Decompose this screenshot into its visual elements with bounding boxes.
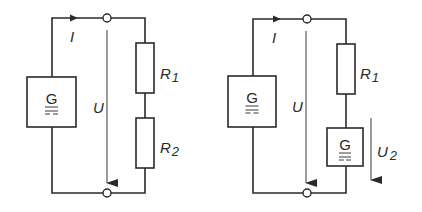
resistor-r1 (337, 44, 355, 94)
r1-label: R1 (160, 65, 179, 85)
current-arrow-icon (70, 15, 78, 22)
resistor-r1 (136, 43, 154, 93)
generator-label: G (246, 89, 258, 106)
right-top-wire-right (311, 19, 346, 44)
left-bottom-wire (52, 127, 103, 193)
current-label: I (272, 29, 276, 46)
terminal-bottom (103, 189, 111, 197)
generator-label: G (46, 90, 58, 107)
r2-label: R2 (160, 139, 180, 159)
left-circuit: G I U R1 R2 (27, 14, 180, 197)
voltage-label: U (93, 99, 104, 116)
generator-2-label: G (339, 136, 351, 153)
left-top-wire (52, 18, 103, 77)
voltage-label: U (292, 98, 303, 115)
terminal-bottom (303, 189, 311, 197)
right-circuit: G G I U R1 U2 (228, 15, 398, 197)
u2-label: U2 (377, 143, 398, 163)
current-label: I (70, 28, 74, 45)
circuit-diagram: G I U R1 R2 G (0, 0, 422, 212)
right-bottom-wire (253, 127, 303, 193)
r1-label: R1 (360, 65, 379, 85)
terminal-top (303, 15, 311, 23)
left-top-wire-right (111, 18, 145, 43)
right-bottom-wire-right (311, 166, 346, 193)
resistor-r2 (136, 118, 154, 168)
left-bottom-wire-right (111, 168, 145, 193)
right-top-wire (253, 19, 303, 76)
terminal-top (103, 14, 111, 22)
current-arrow-icon (273, 16, 281, 23)
